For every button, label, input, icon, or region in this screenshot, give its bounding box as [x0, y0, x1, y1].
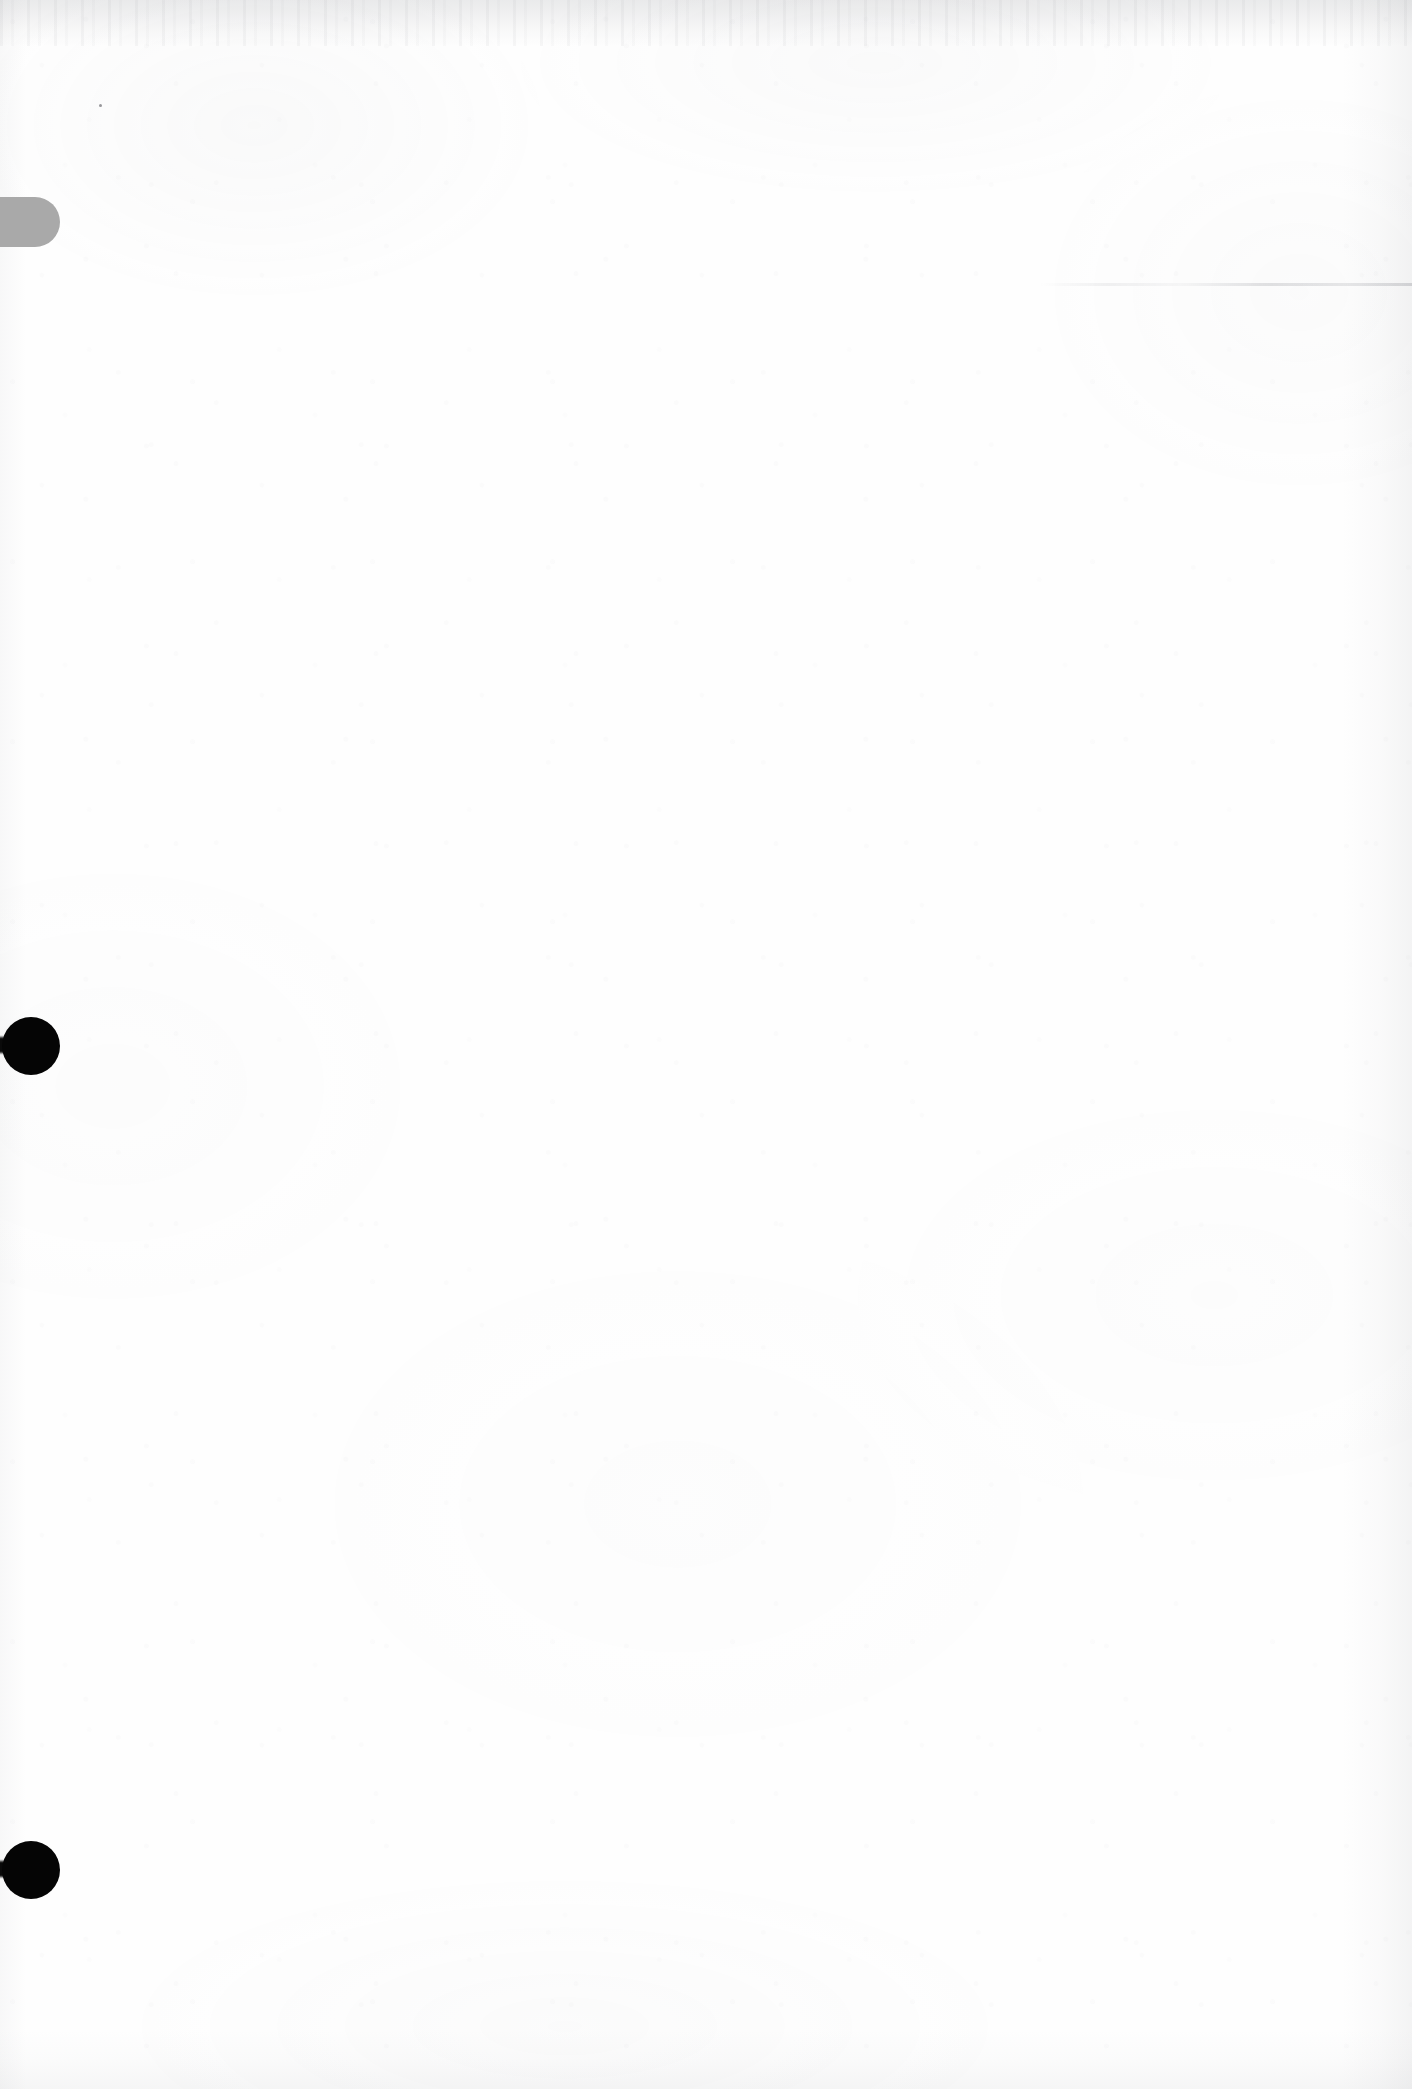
- black-dot-upper: [2, 1017, 60, 1075]
- paper-surface: [0, 0, 1412, 2089]
- black-dot-lower: [2, 1841, 60, 1899]
- scanned-page: [0, 0, 1412, 2089]
- gray-tab-mark: [0, 197, 60, 247]
- ink-speck: [99, 104, 102, 107]
